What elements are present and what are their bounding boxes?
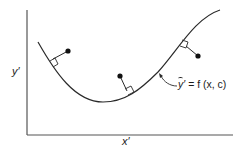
right-angle-marker-1	[50, 58, 58, 67]
curve-label-rest: = f (x, c)	[185, 78, 226, 90]
data-point-1-group	[50, 48, 71, 67]
data-point-3-group	[180, 40, 201, 59]
diagram-svg	[0, 0, 241, 153]
leader-line	[161, 76, 177, 86]
data-point-2-group	[117, 73, 134, 95]
x-axis-label: x′	[122, 136, 130, 147]
y-axis-label: y′	[12, 66, 20, 77]
curve-equation-label: y′ = f (x, c)	[178, 79, 226, 90]
data-point-3	[195, 53, 200, 58]
curve-label-leader	[159, 73, 177, 86]
data-point-2	[117, 73, 122, 78]
diagram-canvas: y′ x′ y′ = f (x, c)	[0, 0, 241, 153]
curve-label-var: y	[178, 79, 183, 90]
data-point-1	[65, 48, 70, 53]
arrowhead-icon	[159, 73, 163, 78]
